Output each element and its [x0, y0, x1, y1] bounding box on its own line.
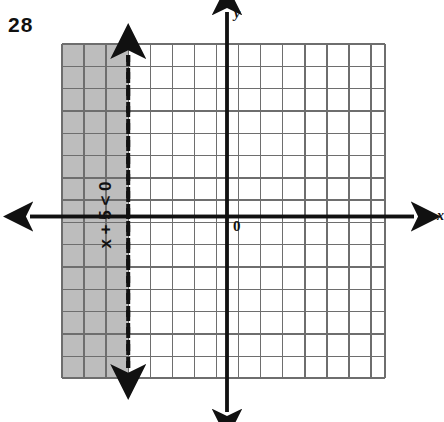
inequality-annotation: x + 5 < 0	[95, 155, 117, 275]
coordinate-plane-svg	[0, 0, 444, 422]
x-axis-label: x	[437, 208, 444, 224]
y-axis-label: y	[234, 6, 240, 22]
graph-figure: 28	[0, 0, 444, 422]
origin-label: 0	[233, 218, 241, 235]
